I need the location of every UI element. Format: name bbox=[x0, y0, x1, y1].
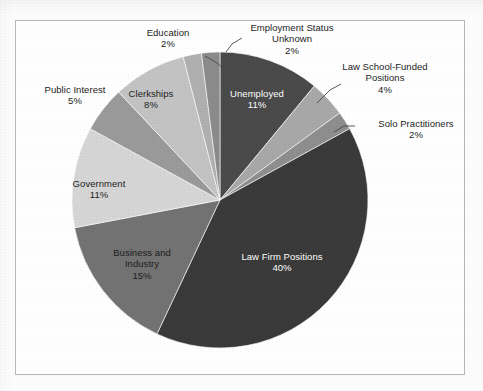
slice-label-clerkships-value: 8% bbox=[115, 99, 187, 110]
slice-label-law-school-funded-name-line2: Positions bbox=[325, 72, 445, 83]
slice-label-education-name: Education bbox=[127, 27, 209, 38]
slice-label-public-interest-value: 5% bbox=[29, 95, 121, 106]
slice-label-clerkships-name: Clerkships bbox=[115, 88, 187, 99]
slice-label-unemployed: Unemployed 11% bbox=[216, 88, 298, 111]
slice-label-employment-status-unknown-name-line2: Unknown bbox=[232, 33, 352, 44]
slice-label-government: Government 11% bbox=[52, 178, 146, 201]
slice-label-employment-status-unknown-name-line1: Employment Status bbox=[232, 22, 352, 33]
pie-chart-figure: Education 2% Employment Status Unknown 2… bbox=[0, 0, 483, 391]
slice-label-government-name: Government bbox=[52, 178, 146, 189]
slice-label-business-and-industry-name-line2: Industry bbox=[96, 258, 188, 269]
slice-label-law-firm-positions-name: Law Firm Positions bbox=[222, 251, 342, 262]
slice-label-education: Education 2% bbox=[127, 27, 209, 50]
slice-label-law-firm-positions-value: 40% bbox=[222, 262, 342, 273]
slice-label-public-interest-name: Public Interest bbox=[29, 84, 121, 95]
slice-label-unemployed-name: Unemployed bbox=[216, 88, 298, 99]
slice-label-business-and-industry: Business and Industry 15% bbox=[96, 247, 188, 281]
slice-label-solo-practitioners-value: 2% bbox=[357, 129, 475, 140]
slice-label-business-and-industry-value: 15% bbox=[96, 270, 188, 281]
slice-label-law-school-funded-name-line1: Law School-Funded bbox=[325, 61, 445, 72]
slice-label-government-value: 11% bbox=[52, 189, 146, 200]
slice-label-clerkships: Clerkships 8% bbox=[115, 88, 187, 111]
slice-label-solo-practitioners-name: Solo Practitioners bbox=[357, 118, 475, 129]
slice-label-education-value: 2% bbox=[127, 38, 209, 49]
slice-label-law-school-funded-value: 4% bbox=[325, 84, 445, 95]
slice-label-employment-status-unknown-value: 2% bbox=[232, 45, 352, 56]
slice-label-solo-practitioners: Solo Practitioners 2% bbox=[357, 118, 475, 141]
slice-label-unemployed-value: 11% bbox=[216, 99, 298, 110]
slice-label-law-firm-positions: Law Firm Positions 40% bbox=[222, 251, 342, 274]
slice-label-employment-status-unknown: Employment Status Unknown 2% bbox=[232, 22, 352, 56]
slice-label-business-and-industry-name-line1: Business and bbox=[96, 247, 188, 258]
slice-label-public-interest: Public Interest 5% bbox=[29, 84, 121, 107]
slice-label-law-school-funded-positions: Law School-Funded Positions 4% bbox=[325, 61, 445, 95]
